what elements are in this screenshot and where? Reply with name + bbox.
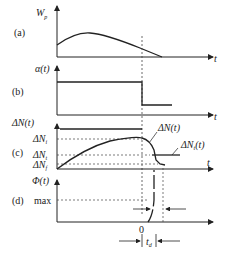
x-label: t: [207, 157, 210, 168]
level-label-i: ΔNi: [32, 133, 48, 145]
y-label: α(t): [35, 63, 50, 75]
leader-1: [149, 132, 157, 143]
td-label: td: [146, 236, 153, 248]
panel-label: (a): [14, 27, 25, 39]
panel-a: (a) Wp t: [14, 6, 217, 64]
x-label: t: [214, 111, 217, 122]
panel-b: (b) α(t) t: [12, 63, 217, 122]
leader-2: [172, 148, 178, 155]
max-label: max: [34, 195, 51, 206]
x-label: t: [214, 53, 217, 64]
y-label: ΔN(t): [11, 117, 35, 129]
curve-label-nt: ΔNt(t): [180, 139, 205, 151]
wp-curve: [57, 33, 162, 57]
y-label: Wp: [36, 7, 47, 20]
diagram: (a) Wp t (b) α(t) t (c) ΔN(t) ΔNi ΔNt ΔN…: [0, 0, 225, 256]
y-label: Φ(t): [32, 175, 50, 187]
panel-d: (d) Φ(t) max 0 td: [12, 168, 213, 248]
panel-label: (d): [12, 195, 24, 207]
phi-curve: [148, 170, 154, 222]
panel-label: (b): [12, 86, 24, 98]
zero-label: 0: [139, 224, 144, 235]
panel-c: (c) ΔN(t) ΔNi ΔNt ΔNf ΔN(t) ΔNt(t) t: [11, 117, 213, 171]
alpha-curve: [57, 82, 172, 105]
panel-label: (c): [12, 147, 23, 159]
curve-label-n: ΔN(t): [157, 122, 181, 134]
